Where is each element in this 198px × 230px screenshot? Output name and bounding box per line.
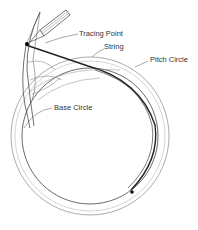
leader-pitch-circle xyxy=(135,61,148,67)
tracing-point-dot xyxy=(25,42,29,46)
label-tracing-point: Tracing Point xyxy=(79,30,123,38)
label-pitch-circle: Pitch Circle xyxy=(150,56,188,64)
pitch-circle xyxy=(11,57,169,215)
label-string: String xyxy=(104,43,124,51)
pitch-circle-inner xyxy=(15,61,165,211)
pencil-icon xyxy=(30,10,70,42)
string-inner xyxy=(95,70,153,188)
string xyxy=(26,45,156,190)
inner-tooth-arc-2 xyxy=(38,78,100,100)
leader-tracing-point xyxy=(45,34,78,43)
label-base-circle: Base Circle xyxy=(54,104,92,112)
leader-string xyxy=(92,49,104,57)
involute-curve xyxy=(27,12,40,126)
construction-arcs xyxy=(28,61,62,94)
string-anchor-point xyxy=(130,190,134,194)
